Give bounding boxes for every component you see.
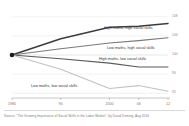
y-tick-label-92: 92 [172, 91, 176, 94]
line-chart-figure: 1081041009692 19809020000612 High maths,… [0, 0, 189, 126]
source-divider [4, 110, 185, 111]
x-tick-label-2000: 2000 [106, 103, 114, 106]
series-label-high-maths-low-social: High maths, low social skills [99, 58, 146, 62]
y-tick-label-104: 104 [172, 34, 178, 37]
x-tick-label-06: 06 [137, 103, 141, 106]
x-tick-label-12: 12 [166, 103, 170, 106]
x-axis-ticks [12, 98, 168, 100]
y-tick-label-108: 108 [172, 15, 178, 18]
source-note: Source: "The Growing Importance of Socia… [4, 114, 186, 118]
chart-plot-area [0, 0, 189, 126]
x-tick-label-1980: 1980 [8, 103, 16, 106]
origin-marker-1980 [10, 53, 15, 58]
y-tick-label-100: 100 [172, 53, 178, 56]
x-tick-label-90: 90 [59, 103, 63, 106]
series-label-high-maths-high-social: High maths, high social skills [104, 27, 153, 31]
origin-dot [10, 53, 15, 58]
series-label-low-maths-low-social: Low maths, low social skills [31, 85, 77, 89]
y-tick-label-96: 96 [172, 72, 176, 75]
series-label-low-maths-high-social: Low maths, high social skills [107, 47, 155, 51]
